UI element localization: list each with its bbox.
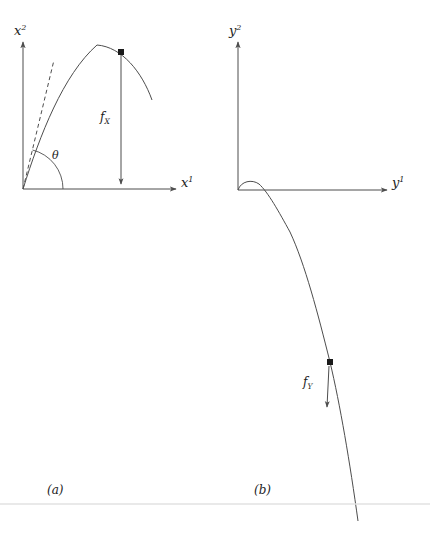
panel-b-group [238,42,387,521]
axis-label-y1: y1 [392,176,404,189]
figure-vector-layer [0,0,430,535]
tangent-dashed-line [23,60,54,189]
panel-caption-a: (a) [47,484,64,496]
axis-label-y2: y2 [229,24,241,37]
force-label-fx: fX [100,111,110,123]
figure-canvas: x2 x1 y2 y1 fX fY θ (a) (b) [0,0,430,535]
panel-a-point-marker [118,49,124,55]
panel-caption-b: (b) [254,484,271,496]
panel-b-point-marker [327,359,333,365]
axis-label-x1: x1 [181,176,193,189]
trajectory-y-curve [238,181,358,521]
angle-label-theta: θ [52,150,59,161]
axis-label-x2: x2 [14,24,26,37]
fy-force-arrow [327,366,329,407]
force-label-fy: fY [303,376,312,388]
trajectory-x-curve [23,45,152,189]
